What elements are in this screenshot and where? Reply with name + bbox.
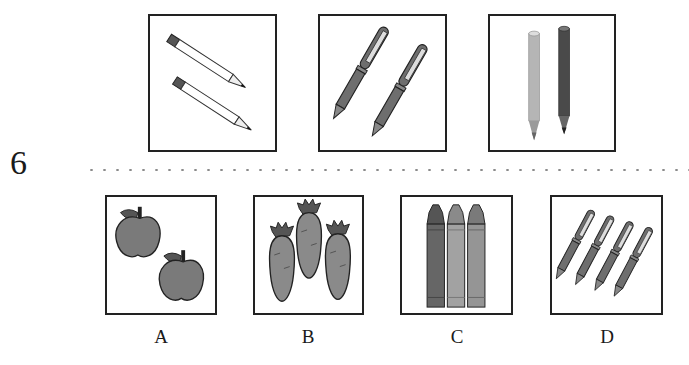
crayon-icon bbox=[402, 197, 511, 313]
prompt-box-pencils bbox=[148, 14, 277, 152]
option-label-b: B bbox=[288, 327, 328, 346]
carrot-icon bbox=[255, 197, 362, 313]
option-box-a[interactable] bbox=[105, 195, 217, 315]
option-box-b[interactable] bbox=[253, 195, 364, 315]
pencil-icon bbox=[150, 16, 275, 150]
option-label-c: C bbox=[437, 327, 477, 346]
prompt-box-colored-pencils bbox=[488, 14, 616, 152]
dotted-divider bbox=[85, 169, 689, 171]
option-label-d: D bbox=[587, 327, 627, 346]
colored-pencil-icon bbox=[490, 16, 614, 150]
option-box-d[interactable] bbox=[550, 195, 663, 315]
apple-icon bbox=[107, 197, 215, 313]
pen-icon bbox=[552, 197, 661, 313]
pen-icon bbox=[320, 16, 445, 150]
prompt-box-pens bbox=[318, 14, 447, 152]
option-label-a: A bbox=[141, 327, 181, 346]
option-box-c[interactable] bbox=[400, 195, 513, 315]
question-number: 6 bbox=[10, 146, 27, 180]
